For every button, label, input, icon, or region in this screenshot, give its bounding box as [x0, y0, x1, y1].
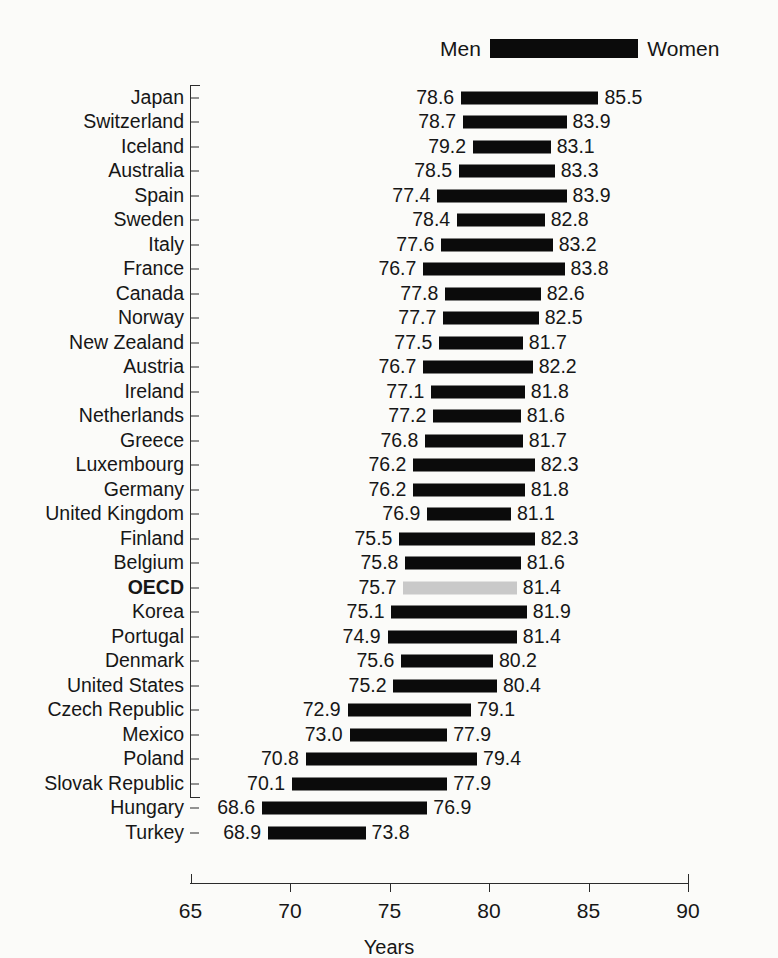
category-label: Canada: [116, 284, 184, 304]
range-bar: [348, 704, 471, 717]
chart-legend: Men Women: [440, 34, 720, 62]
category-label: Belgium: [114, 554, 184, 574]
category-tick: [190, 808, 199, 809]
value-axis-tick-label: 75: [378, 900, 401, 921]
category-label: Turkey: [125, 823, 184, 843]
men-value-label: 78.6: [416, 88, 454, 108]
women-value-label: 80.4: [503, 676, 541, 696]
range-bar: [439, 336, 523, 349]
men-value-label: 77.1: [386, 382, 424, 402]
men-value-label: 76.2: [368, 480, 406, 500]
category-tick: [190, 318, 199, 319]
women-value-label: 81.1: [517, 505, 555, 525]
men-value-label: 77.5: [394, 333, 432, 353]
bar-row: Belgium75.881.6: [0, 551, 778, 576]
range-bar: [292, 777, 447, 790]
bar-row: Denmark75.680.2: [0, 649, 778, 674]
category-tick: [190, 465, 199, 466]
category-tick: [190, 538, 199, 539]
range-bar: [423, 361, 532, 374]
men-value-label: 77.4: [392, 186, 430, 206]
women-value-label: 81.6: [527, 554, 565, 574]
category-label: United States: [67, 676, 184, 696]
range-bar: [437, 189, 566, 202]
men-value-label: 68.6: [217, 799, 255, 819]
category-label: Sweden: [114, 211, 184, 231]
men-value-label: 78.5: [414, 162, 452, 182]
bar-row: France76.783.8: [0, 257, 778, 282]
women-value-label: 79.4: [483, 750, 521, 770]
bar-row: Slovak Republic70.177.9: [0, 772, 778, 797]
range-bar: [427, 508, 511, 521]
category-label: Ireland: [124, 382, 184, 402]
range-bar: [350, 728, 448, 741]
women-value-label: 80.2: [499, 652, 537, 672]
women-value-label: 76.9: [433, 799, 471, 819]
men-value-label: 77.6: [396, 235, 434, 255]
value-axis-tick-label: 85: [577, 900, 600, 921]
category-label: Greece: [120, 431, 184, 451]
bar-row: Finland75.582.3: [0, 527, 778, 552]
category-tick: [190, 685, 199, 686]
category-tick: [190, 342, 199, 343]
category-tick: [190, 636, 199, 637]
plot-area: Japan78.685.5Switzerland78.783.9Iceland7…: [0, 85, 778, 800]
value-axis-tick-label: 80: [477, 900, 500, 921]
range-bar: [399, 532, 534, 545]
women-value-label: 83.8: [571, 260, 609, 280]
category-tick: [190, 440, 199, 441]
bar-row: Germany76.281.8: [0, 478, 778, 503]
category-tick: [190, 122, 199, 123]
women-value-label: 83.1: [557, 137, 595, 157]
women-value-label: 83.9: [573, 113, 611, 133]
women-value-label: 82.3: [541, 529, 579, 549]
women-value-label: 82.6: [547, 284, 585, 304]
bar-row: Austria76.782.2: [0, 355, 778, 380]
women-value-label: 81.7: [529, 333, 567, 353]
men-value-label: 79.2: [428, 137, 466, 157]
bar-row: Switzerland78.783.9: [0, 110, 778, 135]
category-tick: [190, 146, 199, 147]
value-axis-tick: [290, 883, 291, 892]
women-value-label: 81.4: [523, 627, 561, 647]
category-label: United Kingdom: [45, 505, 184, 525]
bar-row: Ireland77.181.8: [0, 380, 778, 405]
bar-row: Japan78.685.5: [0, 86, 778, 111]
women-value-label: 81.6: [527, 407, 565, 427]
category-tick: [190, 587, 199, 588]
range-bar: [306, 753, 477, 766]
category-label: France: [123, 260, 184, 280]
category-tick: [190, 220, 199, 221]
value-axis-tick-label: 70: [278, 900, 301, 921]
category-label: Italy: [148, 235, 184, 255]
category-tick: [190, 710, 199, 711]
men-value-label: 70.8: [261, 750, 299, 770]
category-tick: [190, 832, 199, 833]
range-bar: [413, 483, 524, 496]
range-bar: [393, 679, 496, 692]
legend-bar-swatch: [490, 39, 638, 58]
bar-row: Greece76.881.7: [0, 429, 778, 454]
men-value-label: 76.8: [380, 431, 418, 451]
bar-row: Spain77.483.9: [0, 184, 778, 209]
bar-row: United Kingdom76.981.1: [0, 502, 778, 527]
category-label: Germany: [104, 480, 184, 500]
category-tick: [190, 612, 199, 613]
range-bar: [425, 434, 523, 447]
category-label: Portugal: [111, 627, 184, 647]
range-bar: [461, 91, 598, 104]
women-value-label: 73.8: [372, 823, 410, 843]
category-label: Poland: [123, 750, 184, 770]
bar-row: Poland70.879.4: [0, 747, 778, 772]
men-value-label: 78.4: [412, 211, 450, 231]
category-tick: [190, 759, 199, 760]
value-axis-line: [190, 883, 688, 884]
x-axis-title: Years: [0, 936, 778, 958]
bar-row: OECD75.781.4: [0, 576, 778, 601]
range-bar: [441, 238, 552, 251]
men-value-label: 77.7: [398, 309, 436, 329]
women-value-label: 77.9: [453, 774, 491, 794]
category-label: New Zealand: [69, 333, 184, 353]
bar-row: Italy77.683.2: [0, 233, 778, 258]
men-value-label: 70.1: [247, 774, 285, 794]
